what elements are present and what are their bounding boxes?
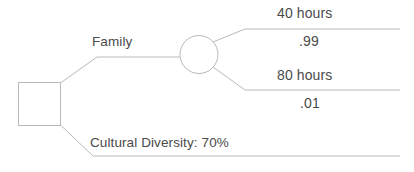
probability-label-80-hours: .01 [300,96,320,110]
branch-label-family: Family [92,35,132,49]
branch-line-family [61,57,181,83]
decision-node-square[interactable] [19,83,61,126]
decision-tree-diagram: Family 40 hours .99 80 hours .01 Cultura… [0,0,414,172]
chance-node-circle[interactable] [180,36,218,74]
outcome-label-80-hours: 80 hours [277,68,332,82]
probability-label-40-hours: .99 [299,34,319,48]
outcome-label-40-hours: 40 hours [277,6,332,20]
branch-label-cultural-diversity: Cultural Diversity: 70% [90,136,229,150]
